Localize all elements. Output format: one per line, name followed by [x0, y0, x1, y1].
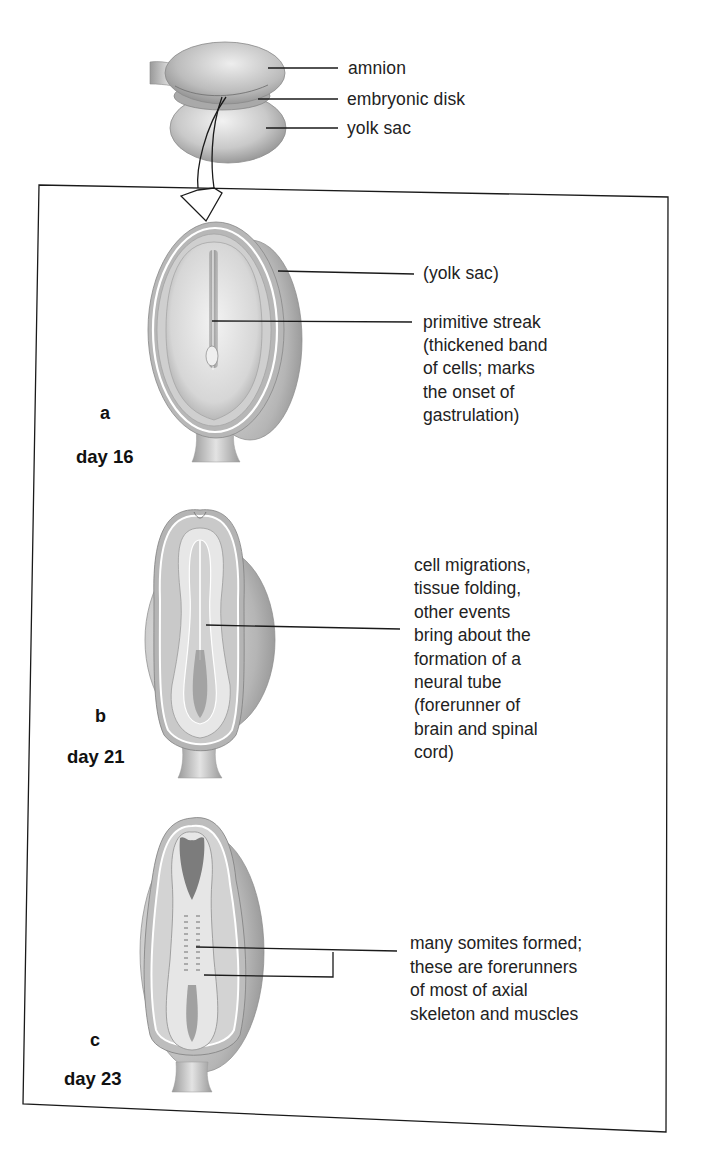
callout-line: formation of a — [414, 648, 538, 671]
label-yolk-sac: yolk sac — [347, 117, 411, 140]
callout-line: other events — [414, 601, 538, 624]
early-embryo-illustration — [150, 42, 286, 163]
stage-letter-c: c — [90, 1030, 100, 1051]
stage-day-c: day 23 — [64, 1068, 122, 1090]
callout-line: bring about the — [414, 624, 538, 647]
label-amnion: amnion — [348, 57, 406, 80]
callout-line: many somites formed; — [410, 932, 582, 956]
callout-line: these are forerunners — [410, 956, 582, 980]
callout-line: cord) — [414, 741, 538, 764]
embryo-day-16-illustration — [148, 222, 302, 462]
callout-line: the onset of — [423, 381, 548, 404]
stage-letter-b: b — [95, 706, 106, 727]
diagram-graphics — [0, 0, 702, 1154]
callout-somites: many somites formed; these are forerunne… — [410, 932, 582, 1026]
embryo-day-23-illustration — [140, 818, 264, 1092]
callout-neural-tube: cell migrations, tissue folding, other e… — [414, 554, 538, 765]
callout-line: brain and spinal — [414, 718, 538, 741]
callout-primitive-streak: primitive streak (thickened band of cell… — [423, 311, 548, 427]
callout-line: tissue folding, — [414, 577, 538, 600]
callout-line: of cells; marks — [423, 357, 548, 380]
stage-letter-a: a — [100, 403, 110, 424]
callout-line: (thickened band — [423, 334, 548, 357]
callout-line: neural tube — [414, 671, 538, 694]
callout-line: primitive streak — [423, 311, 548, 334]
callout-yolk-sac-day16: (yolk sac) — [423, 262, 499, 285]
stage-day-b: day 21 — [67, 746, 125, 768]
callout-line: skeleton and muscles — [410, 1003, 582, 1027]
callout-line: (forerunner of — [414, 694, 538, 717]
stage-day-a: day 16 — [76, 446, 134, 468]
callout-line: gastrulation) — [423, 404, 548, 427]
embryo-day-21-illustration — [145, 510, 275, 778]
label-embryonic-disk: embryonic disk — [347, 88, 465, 111]
callout-line: of most of axial — [410, 979, 582, 1003]
callout-line: cell migrations, — [414, 554, 538, 577]
